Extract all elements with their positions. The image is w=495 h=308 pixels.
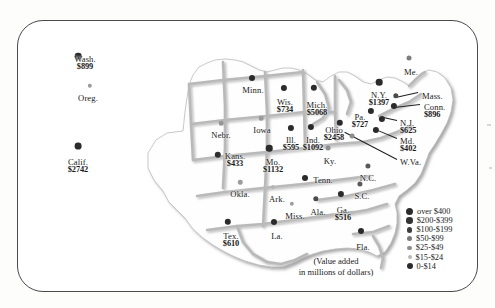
state-data-dot [326, 146, 331, 151]
state-data-dot [271, 219, 277, 225]
legend-swatch-dot [407, 227, 413, 233]
legend-swatch-dot [407, 236, 412, 241]
state-name: Miss. [285, 212, 304, 221]
legend-swatch-dot [406, 217, 412, 223]
state-label: Tenn. [313, 176, 333, 185]
legend-swatch-dot [407, 246, 412, 251]
state-name: La. [271, 232, 283, 241]
state-data-dot [350, 134, 355, 139]
state-data-dot [249, 75, 255, 81]
state-label: Iowa [253, 126, 271, 135]
state-label: Ga.$516 [335, 206, 351, 223]
state-label: Ky. [324, 157, 336, 166]
legend-item: $100-$199 [406, 225, 476, 234]
state-value: $1132 [263, 166, 283, 174]
state-value: $896 [424, 111, 445, 119]
state-name: W.Va. [400, 158, 421, 167]
legend-label: over $400 [417, 207, 450, 216]
scan-speck [489, 167, 492, 169]
state-name: Ark. [269, 195, 285, 204]
figure-root: Wash.$899Oreg.Calif.$2742Nebr.Kans.$433O… [0, 0, 495, 308]
state-label: Okla. [230, 190, 249, 199]
state-data-dot [302, 175, 308, 181]
legend-label: $15-$24 [416, 253, 444, 262]
state-value: $899 [74, 63, 96, 71]
legend-item: over $400 [406, 207, 476, 216]
state-value: $402 [400, 145, 416, 153]
state-data-dot [238, 180, 243, 185]
legend-item: $50-$99 [406, 234, 476, 243]
state-value: $595 [283, 144, 299, 152]
state-label: Conn.$896 [424, 103, 445, 120]
state-name: Fla. [356, 243, 370, 252]
state-name: Okla. [230, 190, 249, 199]
caption-line-1: (Value added [313, 256, 358, 266]
state-name: Me. [404, 68, 418, 77]
state-data-dot [259, 116, 264, 121]
state-label: La. [271, 232, 283, 241]
state-name: Iowa [253, 126, 271, 135]
state-data-dot [407, 56, 412, 61]
state-data-dot [75, 143, 82, 150]
state-data-dot [358, 228, 364, 234]
state-label: Ind.$1092 [303, 136, 323, 153]
state-value: $516 [335, 214, 351, 222]
legend-item: 0-$14 [406, 262, 476, 271]
state-label: Mo.$1132 [263, 158, 283, 175]
state-label: Wis.$734 [277, 98, 293, 115]
state-label: Calif.$2742 [68, 158, 88, 175]
state-label: Nebr. [211, 131, 230, 140]
legend-label: $25-$49 [416, 243, 444, 252]
state-label: Ark. [269, 195, 285, 204]
legend-item: $15-$24 [406, 252, 476, 261]
figure-caption: (Value added in millions of dollars) [276, 256, 396, 277]
caption-line-2: in millions of dollars) [299, 267, 374, 277]
state-name: N.C. [360, 174, 377, 183]
state-value: $610 [223, 240, 239, 248]
legend-item: $25-$49 [406, 243, 476, 252]
legend-swatch-dot [406, 208, 413, 215]
state-value: $433 [225, 160, 245, 168]
state-label: N.Y.$1397 [369, 91, 389, 108]
state-label: Minn. [242, 86, 263, 95]
state-value: $625 [400, 127, 416, 135]
state-value: $2458 [324, 134, 344, 142]
legend-label: $200-$399 [417, 216, 453, 225]
state-label: Ohio$2458 [324, 126, 344, 143]
state-name: Oreg. [78, 94, 98, 103]
state-value: $2742 [68, 166, 88, 174]
legend: over $400$200-$399$100-$199$50-$99$25-$4… [406, 207, 476, 271]
state-label: W.Va. [400, 158, 421, 167]
state-value: $1092 [303, 144, 323, 152]
state-label: Ala. [311, 208, 326, 217]
state-label: Tex.$610 [223, 232, 239, 249]
state-label: Oreg. [78, 94, 98, 103]
state-name: Tenn. [313, 176, 333, 185]
state-label: N.C. [360, 174, 377, 183]
state-data-dot [376, 79, 383, 86]
legend-label: $100-$199 [416, 225, 452, 234]
state-name: Ala. [311, 208, 326, 217]
legend-swatch-dot [408, 255, 412, 259]
state-label: Pa.$727 [352, 113, 368, 130]
state-label: Mass. [422, 92, 443, 101]
state-label: Fla. [356, 243, 370, 252]
scan-speck [487, 124, 491, 126]
legend-item: $200-$399 [406, 216, 476, 225]
state-label: Wash.$899 [74, 55, 96, 72]
state-name: Ky. [324, 157, 336, 166]
state-name: S.C. [354, 192, 369, 201]
state-data-dot [266, 145, 273, 152]
legend-label: $50-$99 [416, 234, 444, 243]
state-label: Kans.$433 [225, 152, 245, 169]
legend-swatch-dot [407, 263, 413, 269]
state-value: $734 [277, 106, 293, 114]
state-value: $727 [352, 121, 368, 129]
state-label: Ill.$595 [283, 136, 299, 153]
state-label: Md.$402 [400, 137, 416, 154]
state-name: Nebr. [211, 131, 230, 140]
state-label: N.J.$625 [400, 119, 416, 136]
state-data-dot [219, 121, 224, 126]
legend-label: 0-$14 [417, 262, 436, 271]
state-name: Mass. [422, 92, 443, 101]
